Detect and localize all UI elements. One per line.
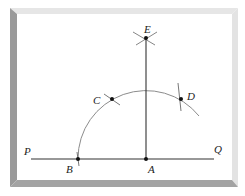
label-b: B — [66, 163, 73, 175]
label-a: A — [147, 163, 155, 175]
diagram-frame: P Q B A C D E — [0, 0, 245, 196]
point-b — [76, 157, 80, 161]
frame-left-edge — [10, 8, 17, 187]
label-q: Q — [214, 143, 222, 155]
label-c: C — [93, 94, 101, 106]
point-d — [179, 97, 183, 101]
frame-bottom-edge — [10, 180, 238, 187]
canvas — [17, 14, 232, 180]
point-a — [144, 157, 148, 161]
point-e — [144, 36, 148, 40]
label-p: P — [23, 145, 31, 157]
construction-diagram: P Q B A C D E — [0, 0, 245, 196]
label-e: E — [143, 23, 151, 35]
label-d: D — [186, 90, 195, 102]
frame-top-edge — [10, 8, 238, 14]
point-c — [110, 97, 114, 101]
frame-right-edge — [232, 8, 238, 187]
